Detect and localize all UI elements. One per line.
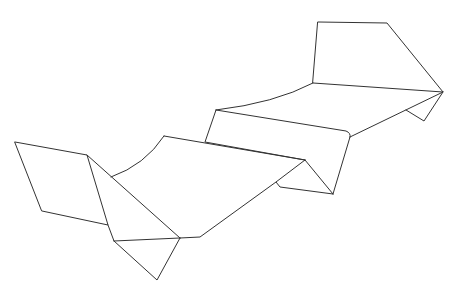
- back-panel-left: [205, 110, 305, 160]
- back-strip: [350, 92, 443, 137]
- front-bottom-edge: [180, 182, 276, 238]
- back-panel-top: [216, 110, 350, 137]
- front-curve: [111, 136, 164, 177]
- left-flap-crease: [108, 225, 114, 241]
- middle-fold-right: [305, 160, 333, 194]
- right-small-triangle: [406, 92, 443, 121]
- folded-strip-diagram: [0, 0, 454, 294]
- hanging-triangle: [114, 238, 180, 280]
- middle-fold-left: [276, 160, 333, 194]
- left-flap: [15, 142, 108, 225]
- back-curve: [216, 83, 313, 110]
- lower-fold-base: [114, 238, 180, 241]
- back-panel-right: [333, 137, 350, 194]
- left-diagonal: [87, 155, 180, 238]
- top-flap: [313, 22, 443, 92]
